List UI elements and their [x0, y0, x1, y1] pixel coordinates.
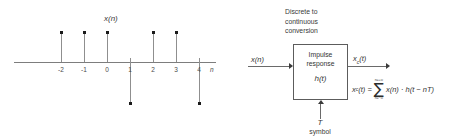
stem-line: [84, 33, 85, 62]
input-arrowhead-icon: [289, 63, 293, 69]
summation-lower-limit: n=−∞: [375, 96, 383, 100]
stem-dot: [198, 102, 201, 105]
block-diagram: Discrete to continuous conversion Impuls…: [228, 0, 456, 138]
output-arrowhead-icon: [386, 63, 390, 69]
output-signal-label: xc(t): [353, 54, 366, 65]
output-signal-arg: (t): [359, 54, 366, 63]
stem-line: [153, 33, 154, 62]
axis-tick-label: -2: [51, 66, 71, 74]
stem-dot: [106, 31, 109, 34]
input-signal-label: x(n): [251, 55, 264, 64]
stem-dot: [129, 102, 132, 105]
summation-group: n=+∞ ∑ n=−∞: [374, 78, 384, 100]
conversion-caption-line2: continuous: [285, 17, 318, 27]
equation-lhs-rest: (t) =: [358, 85, 372, 94]
symbol-period-arrowhead-icon: [318, 100, 324, 104]
input-connector: [248, 66, 291, 67]
stem-plot-axis: [14, 62, 216, 63]
stem-dot: [152, 31, 155, 34]
equation-rhs: x(n) · h(t − nT): [386, 85, 434, 94]
symbol-period-line2: period: [290, 136, 350, 138]
conversion-caption-line1: Discrete to: [285, 7, 317, 17]
stem-line: [61, 33, 62, 62]
block-impulse-response-symbol: h(t): [294, 74, 347, 83]
axis-tick-label: 4: [189, 66, 209, 74]
conversion-caption-line3: conversion: [285, 26, 318, 36]
axis-tick-label: 0: [97, 66, 117, 74]
x-axis-label: n: [210, 66, 214, 73]
stem-dot: [175, 31, 178, 34]
convolution-equation: xc(t) = n=+∞ ∑ n=−∞ x(n) · h(t − nT): [352, 78, 434, 100]
symbol-period-connector: [320, 104, 321, 119]
stem-plot-title: x(n): [104, 14, 118, 23]
stem-line: [176, 33, 177, 62]
summation-sigma-icon: ∑: [374, 82, 384, 96]
axis-tick-label: 1: [120, 66, 140, 74]
stem-dot: [60, 31, 63, 34]
axis-tick-label: 3: [166, 66, 186, 74]
stem-dot: [83, 31, 86, 34]
output-connector: [348, 66, 388, 67]
stem-line: [107, 33, 108, 62]
axis-tick-label: 2: [143, 66, 163, 74]
block-label-line2: response: [294, 59, 347, 68]
axis-tick-label: -1: [74, 66, 94, 74]
impulse-response-block[interactable]: Impulse response h(t): [293, 44, 348, 100]
block-label-line1: Impulse: [294, 50, 347, 59]
stem-plot: x(n) -2 -1 0 1 2 3: [0, 0, 228, 138]
figure-root: x(n) -2 -1 0 1 2 3: [0, 0, 456, 138]
